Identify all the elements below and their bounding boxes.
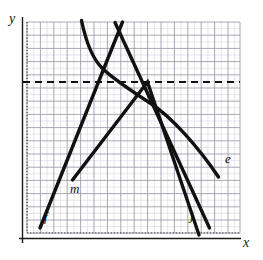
curve-label-j: j bbox=[190, 209, 194, 222]
curve-label-m: m bbox=[70, 182, 79, 195]
x-axis-label: x bbox=[243, 236, 249, 250]
graph-canvas bbox=[0, 0, 263, 260]
curve-f bbox=[40, 22, 123, 228]
curve-label-f: f bbox=[44, 210, 48, 223]
curve-m bbox=[73, 82, 200, 235]
graph-figure: y x f m e j bbox=[0, 0, 263, 260]
y-axis-label: y bbox=[9, 12, 15, 26]
curve-j bbox=[115, 23, 210, 229]
curve-label-e: e bbox=[225, 152, 231, 165]
